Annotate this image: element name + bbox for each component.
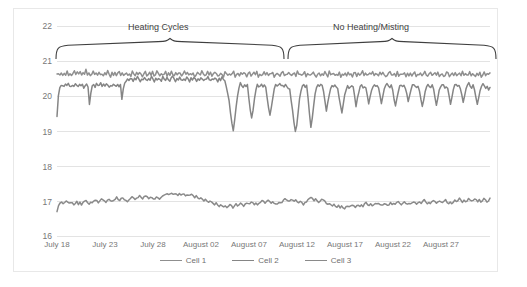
legend-item-cell-3[interactable]: Cell 3 bbox=[305, 256, 351, 265]
legend-label-cell-1: Cell 1 bbox=[186, 256, 206, 265]
legend-swatch-cell-1 bbox=[160, 260, 182, 261]
y-tick-20: 20 bbox=[28, 92, 52, 101]
y-tick-21: 21 bbox=[28, 57, 52, 66]
oxygen-line-chart: Oxygen % 22 21 20 19 18 17 16 July 18 Ju… bbox=[0, 0, 527, 287]
curly-brace-heating-cycles bbox=[54, 38, 286, 60]
curly-brace-no-heating-misting bbox=[286, 38, 498, 60]
y-tick-17: 17 bbox=[28, 198, 52, 207]
y-tick-19: 19 bbox=[28, 128, 52, 137]
legend-label-cell-3: Cell 3 bbox=[331, 256, 351, 265]
annotation-label-heating-cycles: Heating Cycles bbox=[128, 22, 189, 32]
series-line-cell-1 bbox=[57, 69, 490, 77]
chart-legend: Cell 1 Cell 2 Cell 3 bbox=[13, 256, 498, 265]
x-tick-8: August 27 bbox=[411, 240, 471, 250]
y-tick-22: 22 bbox=[28, 22, 52, 31]
legend-item-cell-2[interactable]: Cell 2 bbox=[232, 256, 278, 265]
series-line-cell-3 bbox=[57, 193, 490, 211]
series-line-cell-2 bbox=[57, 76, 490, 131]
legend-swatch-cell-3 bbox=[305, 260, 327, 261]
legend-label-cell-2: Cell 2 bbox=[258, 256, 278, 265]
annotation-label-no-heating-misting: No Heating/Misting bbox=[333, 22, 409, 32]
y-tick-18: 18 bbox=[28, 163, 52, 172]
legend-item-cell-1[interactable]: Cell 1 bbox=[160, 256, 206, 265]
legend-swatch-cell-2 bbox=[232, 260, 254, 261]
